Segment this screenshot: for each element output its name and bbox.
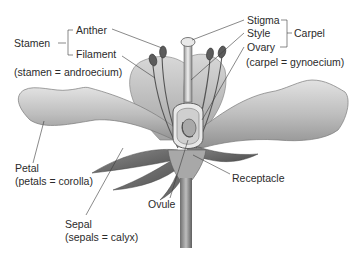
label-filament: Filament <box>76 48 116 60</box>
stigma <box>181 38 195 47</box>
label-style: Style <box>247 27 270 39</box>
stem <box>180 178 192 248</box>
label-ovary: Ovary <box>247 41 275 53</box>
label-carpel: Carpel <box>294 27 325 39</box>
label-carpel-note: (carpel = gynoecium) <box>246 56 344 68</box>
label-receptacle: Receptacle <box>232 172 285 184</box>
label-sepal-note: (sepals = calyx) <box>65 231 138 243</box>
label-stamen: Stamen <box>14 37 50 49</box>
ovule <box>182 119 196 137</box>
label-anther: Anther <box>76 24 107 36</box>
style <box>184 44 192 102</box>
label-sepal: Sepal <box>65 218 92 230</box>
label-petal: Petal <box>15 162 39 174</box>
label-petal-note: (petals = corolla) <box>15 175 93 187</box>
ovary <box>173 103 203 149</box>
label-stigma: Stigma <box>247 14 280 26</box>
label-stamen-note: (stamen = androecium) <box>14 66 122 78</box>
flower-diagram: Stamen Anther Filament (stamen = androec… <box>0 0 364 255</box>
label-ovule: Ovule <box>148 198 175 210</box>
receptacle <box>168 150 206 180</box>
